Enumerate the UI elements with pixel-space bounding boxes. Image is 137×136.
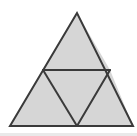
figure-canvas — [0, 0, 137, 136]
scan-bottom-edge — [0, 133, 137, 136]
triangle-diagram — [0, 0, 137, 136]
